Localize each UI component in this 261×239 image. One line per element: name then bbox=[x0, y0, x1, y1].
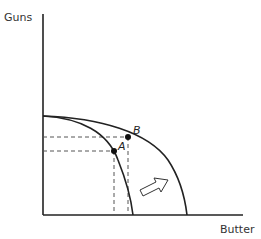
x-axis-label: Butter bbox=[220, 223, 255, 236]
point-b-label: B bbox=[133, 124, 141, 137]
y-axis-label: Guns bbox=[4, 11, 32, 24]
shift-arrow-icon bbox=[140, 178, 168, 196]
point-b-marker bbox=[125, 134, 131, 140]
ppf-diagram: Guns Butter A B bbox=[0, 0, 261, 239]
point-a-label: A bbox=[117, 140, 126, 153]
original-ppf-curve bbox=[43, 116, 133, 215]
point-a-marker bbox=[111, 148, 117, 154]
shifted-ppf-curve bbox=[43, 116, 187, 215]
